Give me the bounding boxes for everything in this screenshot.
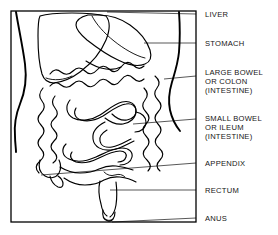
label-anus-line-1: ANUS (205, 214, 227, 223)
label-small-bowel-line-1: SMALL BOWEL (205, 114, 262, 123)
label-stomach-line-1: STOMACH (205, 39, 245, 48)
label-appendix: APPENDIX (205, 159, 245, 168)
label-small-bowel-line-2: OR ILEUM (205, 123, 244, 132)
label-stomach: STOMACH (205, 39, 245, 48)
label-appendix-line-1: APPENDIX (205, 159, 245, 168)
label-liver: LIVER (205, 10, 228, 19)
label-anus: ANUS (205, 214, 227, 223)
label-rectum: RECTUM (205, 186, 239, 195)
label-large-bowel-line-1: LARGE BOWEL (205, 68, 263, 77)
diagram-canvas: LIVER STOMACH LARGE BOWEL OR COLON (INTE… (0, 0, 278, 235)
label-large-bowel-line-2: OR COLON (205, 77, 248, 86)
label-rectum-line-1: RECTUM (205, 186, 239, 195)
label-liver-line-1: LIVER (205, 10, 228, 19)
label-large-bowel-line-3: (INTESTINE) (205, 86, 253, 95)
digestive-system-figure: LIVER STOMACH LARGE BOWEL OR COLON (INTE… (0, 0, 278, 235)
label-small-bowel-line-3: (INTESTINE) (205, 132, 253, 141)
